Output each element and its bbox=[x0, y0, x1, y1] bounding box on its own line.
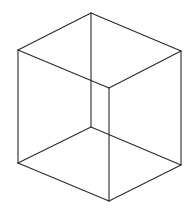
cube-edge-back_lower-right_lower bbox=[91, 127, 181, 165]
cube-edge-left_upper-front_upper bbox=[18, 50, 109, 88]
cube-edge-back_lower-left_lower bbox=[18, 127, 91, 163]
cube-edge-top_back-right_upper bbox=[91, 13, 181, 51]
cube-edge-left_lower-front_lower bbox=[18, 163, 109, 201]
necker-cube-diagram bbox=[0, 0, 190, 210]
cube-edge-right_upper-front_upper bbox=[109, 51, 181, 88]
cube-edge-right_lower-front_lower bbox=[109, 165, 181, 201]
cube-edge-top_back-left_upper bbox=[18, 13, 91, 50]
